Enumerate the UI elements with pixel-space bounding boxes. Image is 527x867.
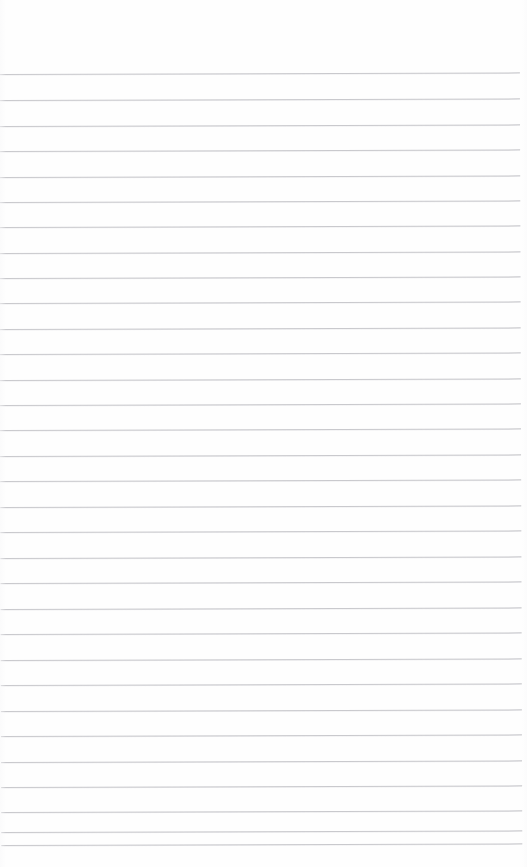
rule-line	[0, 403, 521, 406]
rule-line	[0, 479, 521, 482]
rule-line	[0, 505, 521, 508]
rule-line	[0, 530, 521, 533]
rule-line	[0, 124, 520, 127]
rule-line	[0, 72, 520, 75]
rule-line	[1, 734, 522, 737]
rule-line	[0, 454, 521, 457]
rule-line	[0, 556, 521, 559]
rule-line	[0, 378, 521, 381]
rule-line-stack	[0, 0, 527, 867]
rule-line	[1, 607, 522, 610]
rule-line	[0, 175, 520, 178]
rule-line	[1, 810, 522, 813]
rule-line	[0, 276, 521, 279]
rule-line	[1, 785, 522, 788]
rule-line	[0, 301, 521, 304]
rule-line	[1, 709, 522, 712]
rule-line	[1, 683, 522, 686]
bottom-margin-area	[0, 845, 527, 867]
rule-line	[1, 658, 522, 661]
rule-line	[0, 200, 520, 203]
ruled-paper-page	[0, 0, 527, 867]
rule-line	[0, 327, 521, 330]
rule-line	[0, 581, 521, 584]
rule-line	[1, 830, 522, 833]
rule-line	[0, 98, 520, 101]
rule-line	[0, 149, 520, 152]
rule-line	[1, 632, 522, 635]
rule-line	[0, 352, 521, 355]
rule-line	[0, 225, 520, 228]
rule-line	[0, 251, 520, 254]
rule-line	[0, 428, 521, 431]
rule-line	[1, 760, 522, 763]
